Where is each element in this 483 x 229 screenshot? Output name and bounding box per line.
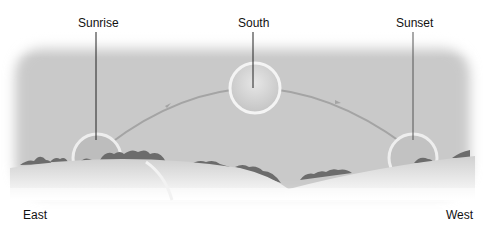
sunrise-label: Sunrise bbox=[78, 16, 119, 30]
east-label: East bbox=[23, 208, 47, 222]
sun-south bbox=[230, 63, 280, 113]
south-label: South bbox=[238, 16, 269, 30]
west-label: West bbox=[446, 208, 473, 222]
sun-path-illustration bbox=[0, 0, 483, 229]
sunset-label: Sunset bbox=[396, 16, 433, 30]
